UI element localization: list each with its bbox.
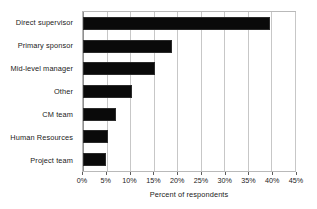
x-tick-30pct <box>225 172 226 175</box>
bar-row <box>83 103 295 126</box>
bar-row <box>83 126 295 149</box>
y-axis-label-primary-sponsor: Primary sponsor <box>0 34 78 57</box>
bar-row <box>83 35 295 58</box>
bar-row <box>83 57 295 80</box>
x-tick-label-15pct: 15% <box>146 176 160 185</box>
bar-row <box>83 12 295 35</box>
x-tick-35pct <box>248 172 249 175</box>
x-tick-label-30pct: 30% <box>217 176 231 185</box>
x-tick-40pct <box>272 172 273 175</box>
x-axis-tick-labels: 0%5%10%15%20%25%30%35%40%45% <box>82 176 296 187</box>
x-tick-label-35pct: 35% <box>241 176 255 185</box>
x-tick-label-20pct: 20% <box>170 176 184 185</box>
x-tick-label-0pct: 0% <box>77 176 87 185</box>
bar-human-resources <box>83 130 108 143</box>
gridline-45pct <box>295 12 296 171</box>
plot-area <box>82 11 296 172</box>
y-axis-label-human-resources: Human Resources <box>0 126 78 149</box>
x-axis-title: Percent of respondents <box>82 190 296 199</box>
x-tick-45pct <box>296 172 297 175</box>
x-tick-label-10pct: 10% <box>122 176 136 185</box>
y-axis-label-other: Other <box>0 80 78 103</box>
bar-cm-team <box>83 108 116 121</box>
bar-other <box>83 85 132 98</box>
x-tick-20pct <box>177 172 178 175</box>
x-tick-label-25pct: 25% <box>194 176 208 185</box>
bar-project-team <box>83 153 106 166</box>
y-axis-label-cm-team: CM team <box>0 103 78 126</box>
bar-primary-sponsor <box>83 40 172 53</box>
bar-row <box>83 148 295 171</box>
bar-row <box>83 80 295 103</box>
x-tick-10pct <box>130 172 131 175</box>
bar-series <box>83 12 295 171</box>
bar-mid-level-manager <box>83 62 155 75</box>
x-tick-label-45pct: 45% <box>289 176 303 185</box>
bar-direct-supervisor <box>83 17 270 30</box>
x-tick-label-5pct: 5% <box>101 176 111 185</box>
y-axis-label-mid-level-manager: Mid-level manager <box>0 57 78 80</box>
x-tick-0pct <box>82 172 83 175</box>
y-axis-category-labels: Direct supervisor Primary sponsor Mid-le… <box>0 11 78 172</box>
y-axis-label-direct-supervisor: Direct supervisor <box>0 11 78 34</box>
x-tick-15pct <box>153 172 154 175</box>
y-axis-label-project-team: Project team <box>0 149 78 172</box>
x-tick-25pct <box>201 172 202 175</box>
bar-chart: Direct supervisor Primary sponsor Mid-le… <box>0 0 317 209</box>
x-tick-label-40pct: 40% <box>265 176 279 185</box>
x-tick-5pct <box>106 172 107 175</box>
